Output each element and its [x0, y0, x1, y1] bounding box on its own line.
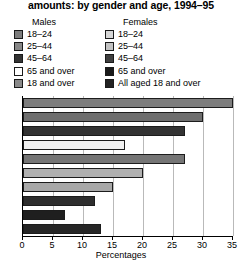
legend-item-label: 18–24: [118, 30, 143, 39]
bar: [23, 224, 101, 234]
legend-item-label: 18 and over: [27, 79, 75, 88]
legend-item-label: 25–44: [118, 42, 143, 51]
legend-group-females: Females 18–24 25–44 45–64 65 and over Al…: [105, 16, 235, 90]
legend-item: 45–64: [105, 53, 235, 65]
legend-swatch-icon: [105, 54, 114, 63]
chart-container: amounts: by gender and age, 1994–95 Male…: [0, 0, 242, 263]
legend-item: 65 and over: [105, 65, 235, 77]
chart-title: amounts: by gender and age, 1994–95: [0, 0, 242, 12]
legend-swatch-icon: [105, 30, 114, 39]
bar: [23, 112, 203, 122]
legend-item: 18–24: [105, 28, 235, 40]
legend-swatch-icon: [14, 54, 23, 63]
bar: [23, 140, 125, 150]
bar: [23, 168, 143, 178]
bar: [23, 210, 65, 220]
legend-item-label: 18–24: [27, 30, 52, 39]
bar: [23, 182, 113, 192]
bar: [23, 196, 95, 206]
legend-item: All aged 18 and over: [105, 78, 235, 90]
chart-legend: Males 18–24 25–44 45–64 65 and over 18 a…: [0, 16, 242, 94]
legend-group-heading-females: Females: [123, 16, 235, 28]
legend-swatch-icon: [105, 67, 114, 76]
legend-swatch-icon: [14, 67, 23, 76]
legend-swatch-icon: [105, 42, 114, 51]
legend-swatch-icon: [105, 79, 114, 88]
legend-item: 25–44: [105, 40, 235, 52]
legend-item-label: 25–44: [27, 42, 52, 51]
bar-series: [23, 96, 232, 236]
bar: [23, 98, 233, 108]
bar: [23, 126, 185, 136]
gridline: [233, 96, 234, 236]
legend-swatch-icon: [14, 42, 23, 51]
legend-item-label: 65 and over: [118, 67, 166, 76]
bar: [23, 154, 185, 164]
legend-item-label: 65 and over: [27, 67, 75, 76]
x-axis-label: Percentages: [0, 250, 242, 260]
legend-item-label: All aged 18 and over: [118, 79, 201, 88]
legend-item-label: 45–64: [118, 54, 143, 63]
legend-swatch-icon: [14, 79, 23, 88]
plot-area: [22, 96, 232, 236]
legend-swatch-icon: [14, 30, 23, 39]
legend-item-label: 45–64: [27, 54, 52, 63]
